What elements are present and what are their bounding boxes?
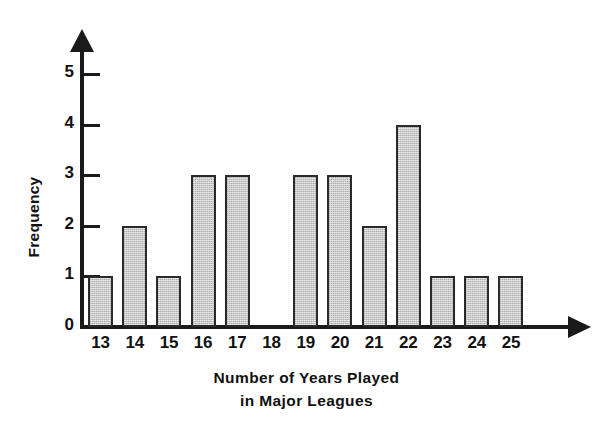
y-axis-tick-4 [84, 124, 100, 127]
x-axis-tick-label-16: 16 [186, 333, 220, 353]
bar-23 [430, 276, 455, 327]
x-axis-tick-label-20: 20 [323, 333, 357, 353]
x-axis-tick-label-23: 23 [426, 333, 460, 353]
y-axis-tick-3 [84, 174, 100, 177]
bar-16 [191, 175, 216, 327]
x-axis-tick-label-18: 18 [255, 333, 289, 353]
histogram-chart: Frequency 012345 13141516171819202122232… [0, 0, 613, 434]
bar-15 [156, 276, 181, 327]
y-axis-title: Frequency [25, 152, 43, 282]
y-axis-tick-label-0: 0 [44, 315, 74, 335]
x-axis-tick-label-25: 25 [494, 333, 528, 353]
y-axis-line [80, 48, 84, 329]
bar-13 [88, 276, 113, 327]
x-axis-tick-label-17: 17 [220, 333, 254, 353]
bar-21 [362, 226, 387, 327]
y-axis-tick-label-4: 4 [44, 113, 74, 133]
bar-17 [225, 175, 250, 327]
y-axis-tick-2 [84, 225, 100, 228]
x-axis-tick-label-21: 21 [357, 333, 391, 353]
y-axis-tick-label-1: 1 [44, 264, 74, 284]
x-axis-title-line-1: Number of Years Played [214, 369, 400, 386]
bar-14 [122, 226, 147, 327]
y-axis-tick-label-3: 3 [44, 163, 74, 183]
bar-20 [327, 175, 352, 327]
x-axis-tick-label-13: 13 [84, 333, 118, 353]
x-axis-title: Number of Years Played in Major Leagues [0, 366, 613, 412]
bar-19 [293, 175, 318, 327]
x-axis-arrow-icon [568, 316, 591, 338]
y-axis-tick-label-5: 5 [44, 62, 74, 82]
y-axis-tick-label-2: 2 [44, 214, 74, 234]
bar-24 [464, 276, 489, 327]
x-axis-tick-label-22: 22 [391, 333, 425, 353]
y-axis-tick-5 [84, 73, 100, 76]
bar-22 [396, 125, 421, 327]
y-axis-arrow-icon [70, 29, 94, 52]
x-axis-tick-label-14: 14 [118, 333, 152, 353]
x-axis-tick-label-15: 15 [152, 333, 186, 353]
x-axis-title-line-2: in Major Leagues [0, 389, 613, 412]
x-axis-tick-label-19: 19 [289, 333, 323, 353]
x-axis-tick-label-24: 24 [460, 333, 494, 353]
bar-25 [498, 276, 523, 327]
